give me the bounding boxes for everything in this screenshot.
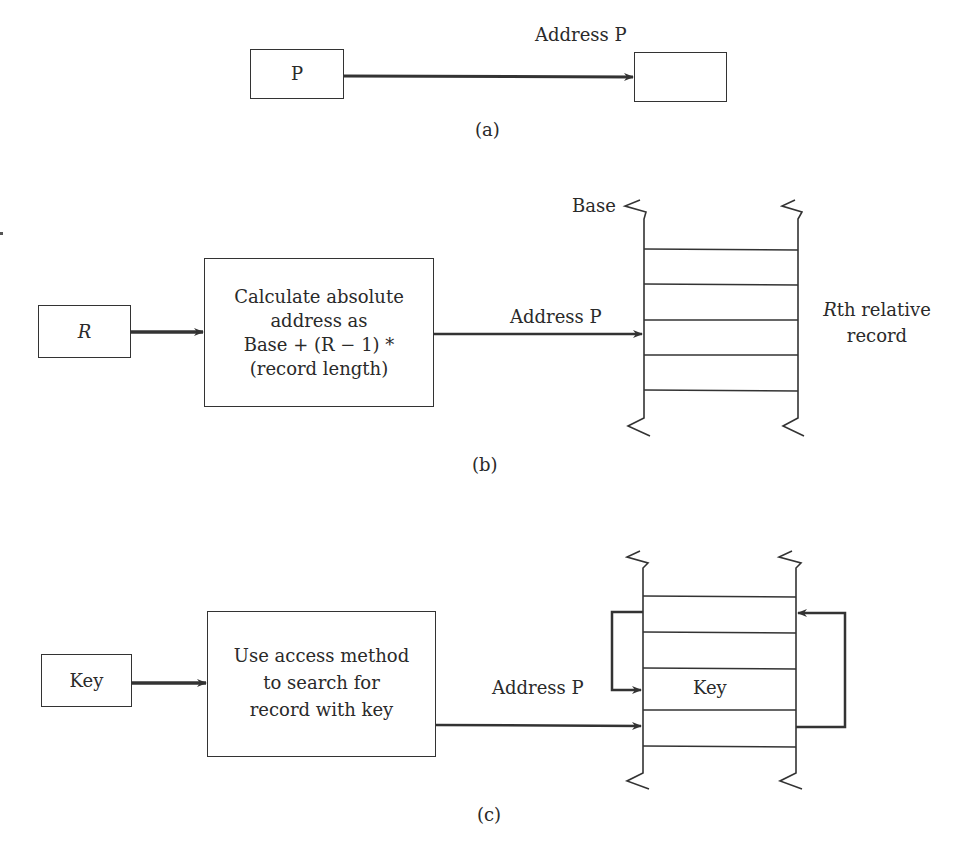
box-b-process-line-1: Calculate absolute — [234, 285, 404, 309]
box-c-process-line-3: record with key — [250, 696, 393, 723]
box-b-input: R — [38, 305, 131, 358]
file-b-side-label: Rth relative record — [812, 297, 942, 349]
bracket-c-left — [612, 612, 643, 690]
arrow-c-address — [435, 725, 641, 726]
arrow-a — [343, 76, 633, 77]
box-a-target — [634, 52, 727, 102]
box-c-input: Key — [41, 654, 132, 707]
box-b-process-line-4: (record length) — [250, 357, 388, 381]
box-c-process: Use access method to search for record w… — [207, 611, 436, 757]
box-a-source: P — [250, 49, 344, 99]
file-b-side-label-rest: th relative — [837, 299, 931, 320]
box-c-input-label: Key — [70, 669, 104, 693]
arrow-a-label: Address P — [535, 25, 627, 45]
caption-b: (b) — [472, 454, 498, 475]
file-b — [625, 200, 804, 436]
box-b-process-line-2: address as — [270, 309, 367, 333]
box-b-input-label: R — [78, 320, 92, 344]
caption-a: (a) — [475, 119, 500, 140]
box-b-process-line-3: Base + (R − 1) * — [244, 333, 395, 357]
box-b-process: Calculate absolute address as Base + (R … — [204, 258, 434, 407]
arrow-c-label: Address P — [492, 678, 584, 698]
file-b-base-label: Base — [572, 196, 616, 216]
file-c — [627, 551, 802, 789]
box-a-source-label: P — [291, 62, 303, 86]
box-c-process-line-2: to search for — [263, 669, 380, 696]
scan-speck — [0, 232, 3, 235]
caption-c: (c) — [477, 804, 501, 825]
box-c-process-line-1: Use access method — [234, 642, 409, 669]
file-c-key-record-label: Key — [693, 678, 727, 698]
bracket-c-right — [796, 613, 845, 727]
arrow-b-label: Address P — [510, 307, 602, 327]
file-b-side-label-line-1: Rth relative — [812, 297, 942, 323]
file-b-side-label-line-2: record — [812, 323, 942, 349]
